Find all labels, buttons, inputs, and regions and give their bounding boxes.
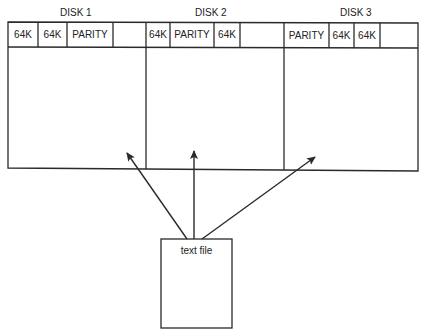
disk-2-block-3: 64K bbox=[214, 22, 240, 47]
disk-2-label: DISK 2 bbox=[195, 7, 227, 18]
disk-1-block-4 bbox=[113, 22, 146, 47]
diagram-canvas bbox=[0, 0, 422, 335]
disk-1-block-3: PARITY bbox=[67, 22, 113, 47]
arrow-to-disk-1 bbox=[127, 153, 187, 239]
disk-3-block-2: 64K bbox=[329, 23, 354, 48]
disk-1-block-1: 64K bbox=[8, 22, 38, 47]
disk-1-block-2: 64K bbox=[38, 22, 67, 47]
disk-2-block-1: 64K bbox=[146, 22, 170, 47]
disk-2-block-4 bbox=[240, 22, 284, 47]
disk-2-block-2: PARITY bbox=[170, 22, 214, 47]
text-file-label: text file bbox=[161, 245, 232, 256]
disk-3-block-4 bbox=[380, 23, 418, 48]
disk-3-label: DISK 3 bbox=[340, 7, 372, 18]
arrows bbox=[127, 151, 315, 239]
disk-3-block-3: 64K bbox=[354, 23, 380, 48]
disk-1-label: DISK 1 bbox=[60, 7, 92, 18]
disk-3-block-1: PARITY bbox=[284, 23, 329, 48]
